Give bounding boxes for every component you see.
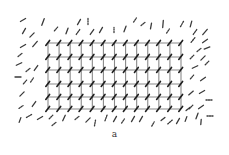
disordered-molecule <box>114 116 117 121</box>
disordered-molecule <box>201 56 205 60</box>
disordered-molecule <box>134 18 137 22</box>
disordered-molecule <box>177 118 180 123</box>
disordered-molecule <box>32 102 35 107</box>
disordered-molecule <box>26 68 30 71</box>
disordered-molecule <box>30 33 34 37</box>
disordered-molecule <box>197 48 201 51</box>
disordered-molecule <box>31 78 34 82</box>
disordered-molecule <box>20 19 25 22</box>
disordered-molecule <box>201 77 206 80</box>
disordered-molecule <box>37 117 42 120</box>
disordered-molecule <box>76 30 79 35</box>
disordered-molecule <box>78 19 81 24</box>
disordered-molecule <box>192 66 197 69</box>
disordered-molecule <box>105 115 107 121</box>
disordered-molecule <box>190 75 193 79</box>
disordered-molecule <box>20 92 24 96</box>
disordered-molecule <box>167 29 170 33</box>
disordered-molecule <box>18 53 22 56</box>
disordered-molecule <box>33 41 37 46</box>
disordered-molecule <box>190 55 194 59</box>
disordered-molecule <box>205 61 209 65</box>
disordered-molecule <box>141 22 145 25</box>
disordered-molecule <box>86 118 90 122</box>
disordered-molecule <box>66 28 68 34</box>
disordered-molecule <box>204 47 210 49</box>
disordered-molecule <box>132 116 135 121</box>
disordered-molecule <box>181 21 184 26</box>
disordered-molecule <box>196 113 198 119</box>
disordered-molecule <box>190 21 192 27</box>
disordered-molecule <box>189 91 194 95</box>
disordered-molecule <box>94 120 95 126</box>
disordered-molecule <box>63 115 66 120</box>
disordered-molecule <box>75 116 79 119</box>
disordered-molecule <box>90 30 93 35</box>
disordered-molecule <box>23 80 26 84</box>
disordered-molecule <box>23 28 26 33</box>
disordered-molecule <box>150 23 151 29</box>
disordered-molecule <box>52 122 56 125</box>
figure-caption: a <box>0 129 229 139</box>
disordered-molecule <box>193 30 196 35</box>
disordered-molecule <box>191 38 195 43</box>
disordered-molecule <box>199 91 204 94</box>
disordered-molecule <box>161 117 165 120</box>
disordered-molecule <box>42 19 44 26</box>
disordered-molecule <box>34 66 37 71</box>
disordered-molecule <box>100 27 103 32</box>
disordered-molecule <box>26 115 31 118</box>
disordered-molecule <box>16 63 21 66</box>
disordered-molecule <box>163 21 164 28</box>
disordered-molecule <box>185 117 187 122</box>
disordered-molecule <box>19 118 21 123</box>
disordered-molecule <box>49 115 53 119</box>
disordered-molecule <box>199 105 204 108</box>
disordered-molecule <box>152 122 155 126</box>
disordered-molecule <box>140 116 143 121</box>
disordered-molecule <box>168 120 173 124</box>
disordered-molecule <box>203 39 208 42</box>
disordered-molecule <box>124 26 126 32</box>
disordered-molecule <box>54 27 57 31</box>
disordered-molecule <box>203 29 207 34</box>
disordered-molecule <box>122 119 125 123</box>
disordered-molecule <box>20 45 25 48</box>
disordered-molecule <box>19 106 23 109</box>
